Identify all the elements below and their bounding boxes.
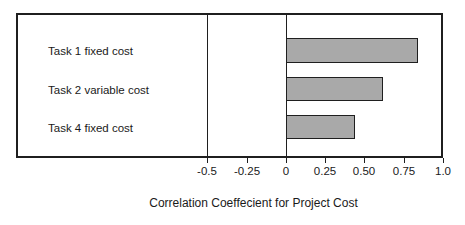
- tick-mark-0-50: [364, 158, 365, 163]
- category-label-task-1-fixed-cost: Task 1 fixed cost: [48, 45, 133, 57]
- tick-label-0-50: 0.50: [353, 165, 375, 178]
- tick-label-neg-0-5: -0.5: [197, 165, 217, 178]
- tick-label-0-25: 0.25: [314, 165, 336, 178]
- tick-mark-0-25: [325, 158, 326, 163]
- tick-mark-1-0: [443, 158, 444, 163]
- tick-label-0: 0: [283, 165, 289, 178]
- tick-mark-neg-0-25: [247, 158, 248, 163]
- tick-mark-0-75: [404, 158, 405, 163]
- category-label-task-4-fixed-cost: Task 4 fixed cost: [48, 122, 133, 134]
- tick-label-neg-0-25: -0.25: [234, 165, 260, 178]
- bar-task-4-fixed-cost[interactable]: [286, 115, 355, 139]
- bar-task-2-variable-cost[interactable]: [286, 77, 383, 101]
- tick-mark-0: [286, 158, 287, 163]
- bar-task-1-fixed-cost[interactable]: [286, 38, 418, 63]
- category-label-task-2-variable-cost: Task 2 variable cost: [48, 84, 149, 96]
- x-axis-title-wrapper: Correlation Coeffecient for Project Cost: [0, 196, 465, 210]
- tick-mark-neg-0-5: [207, 158, 208, 163]
- x-axis-title: Correlation Coeffecient for Project Cost: [149, 196, 358, 210]
- bar-chart: Task 1 fixed cost Task 2 variable cost T…: [0, 0, 465, 225]
- bars-layer: [0, 0, 465, 225]
- tick-label-1-0: 1.0: [435, 165, 451, 178]
- tick-label-0-75: 0.75: [393, 165, 415, 178]
